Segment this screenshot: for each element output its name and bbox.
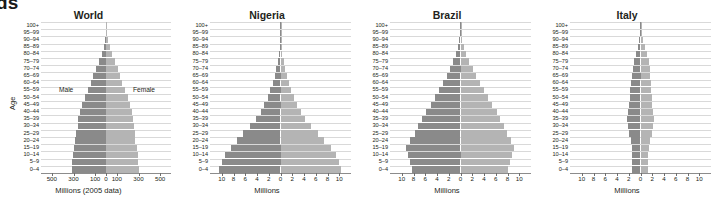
bar-female <box>641 109 654 115</box>
age-tick-label: 70–74 <box>23 66 39 72</box>
age-tick-label: 85–89 <box>192 44 208 50</box>
bar-row <box>390 30 531 36</box>
bar-female <box>461 73 477 79</box>
x-tick-label: 2 <box>627 176 630 182</box>
bar-male <box>225 152 281 158</box>
bar-row <box>210 37 351 43</box>
bar-male <box>628 109 641 115</box>
age-tick-label: 35–39 <box>192 116 208 122</box>
bar-male <box>78 123 106 129</box>
age-tick-label: 30–34 <box>372 123 388 129</box>
plot-area <box>210 22 351 173</box>
bar-row <box>390 152 531 158</box>
bar-row <box>210 152 351 158</box>
x-tick-label: 8 <box>686 176 689 182</box>
bar-row <box>390 80 531 86</box>
bars-layer <box>41 22 171 173</box>
bar-row <box>41 30 171 36</box>
x-tick-label: 8 <box>232 176 235 182</box>
bar-male <box>270 87 280 93</box>
bar-row <box>570 37 711 43</box>
age-tick-label: 100+ <box>26 23 39 29</box>
bar-female <box>106 58 115 64</box>
bar-row <box>390 73 531 79</box>
bar-female <box>641 166 649 172</box>
bar-male <box>627 116 641 122</box>
bar-male <box>439 87 460 93</box>
bar-row <box>390 166 531 172</box>
bar-female <box>641 102 653 108</box>
age-tick-label: 75–79 <box>372 59 388 65</box>
age-tick-label: 45–49 <box>372 102 388 108</box>
bar-row <box>390 109 531 115</box>
age-tick-label: 45–49 <box>192 102 208 108</box>
bar-male <box>410 159 461 165</box>
bar-female <box>461 166 508 172</box>
plot-area <box>570 22 711 173</box>
x-tick-label: 6 <box>424 176 427 182</box>
age-tick-label: 80–84 <box>372 51 388 57</box>
bar-male <box>447 73 461 79</box>
bar-row <box>41 116 171 122</box>
bar-male <box>268 94 281 100</box>
bar-row <box>390 87 531 93</box>
population-pyramids-figure: ds World100+95–9990–9485–8980–8475–7970–… <box>0 0 717 198</box>
bar-male <box>628 123 641 129</box>
pyramid-panel-world: World100+95–9990–9485–8980–8475–7970–746… <box>0 0 177 198</box>
age-tick-label: 100+ <box>375 23 388 29</box>
bar-male <box>443 80 460 86</box>
bar-female <box>641 58 649 64</box>
age-tick-label: 35–39 <box>372 116 388 122</box>
bar-female <box>461 123 504 129</box>
x-tick-label: 2 <box>267 176 270 182</box>
bars-layer <box>210 22 351 173</box>
bar-row <box>570 137 711 143</box>
y-axis-title: Age <box>8 96 17 109</box>
x-tick-label: 100 <box>90 176 100 182</box>
age-tick-label: 5–9 <box>379 159 388 165</box>
age-tick-label: 55–59 <box>23 87 39 93</box>
bar-female <box>281 123 312 129</box>
x-tick-label: 8 <box>592 176 595 182</box>
age-tick-label: 65–69 <box>192 73 208 79</box>
bar-female <box>281 145 331 151</box>
bar-row <box>210 66 351 72</box>
bar-female <box>461 109 497 115</box>
bar-female <box>641 37 643 43</box>
age-tick-label: 65–69 <box>552 73 568 79</box>
bar-male <box>629 130 640 136</box>
bar-male <box>630 94 641 100</box>
bar-female <box>461 159 510 165</box>
x-tick-label: 10 <box>516 176 523 182</box>
bar-female <box>641 152 649 158</box>
bar-female <box>106 116 133 122</box>
bar-female <box>461 87 484 93</box>
bar-female <box>281 44 282 50</box>
age-tick-label: 95–99 <box>372 30 388 36</box>
age-tick-label: 60–64 <box>552 80 568 86</box>
bar-female <box>641 94 652 100</box>
bar-male <box>631 137 641 143</box>
bar-row <box>390 37 531 43</box>
bar-row <box>390 159 531 165</box>
bar-row <box>570 102 711 108</box>
bar-female <box>281 109 301 115</box>
bars-layer <box>390 22 531 173</box>
bar-row <box>210 22 351 28</box>
bar-male <box>412 166 461 172</box>
bar-row <box>570 109 711 115</box>
bar-row <box>570 87 711 93</box>
bar-male <box>632 166 640 172</box>
age-tick-label: 80–84 <box>23 51 39 57</box>
bar-female <box>461 152 513 158</box>
age-tick-label: 95–99 <box>23 30 39 36</box>
bar-row <box>210 159 351 165</box>
age-tick-label: 75–79 <box>192 59 208 65</box>
age-tick-label: 40–44 <box>552 109 568 115</box>
age-tick-label: 85–89 <box>23 44 39 50</box>
age-tick-label: 60–64 <box>192 80 208 86</box>
x-axis-ticks: 1086420246810 <box>390 173 531 187</box>
bar-male <box>629 102 640 108</box>
age-tick-label: 50–54 <box>552 95 568 101</box>
age-tick-label: 40–44 <box>192 109 208 115</box>
